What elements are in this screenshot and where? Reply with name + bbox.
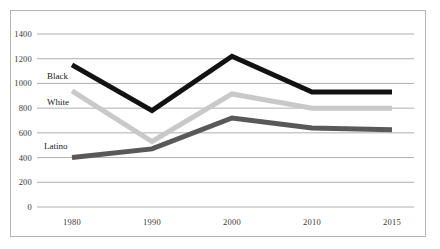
y-tick-label-1000: 1000 bbox=[2, 79, 32, 88]
y-tick-label-1400: 1400 bbox=[2, 30, 32, 39]
y-tick-label-200: 200 bbox=[2, 178, 32, 187]
y-tick-label-800: 800 bbox=[2, 104, 32, 113]
x-tick-label-2010: 2010 bbox=[289, 218, 335, 227]
x-tick-label-2000: 2000 bbox=[209, 218, 255, 227]
series-label-black: Black bbox=[47, 72, 68, 81]
x-tick-label-1990: 1990 bbox=[129, 218, 175, 227]
y-tick-label-0: 0 bbox=[2, 203, 32, 212]
y-tick-label-400: 400 bbox=[2, 154, 32, 163]
y-tick-label-1200: 1200 bbox=[2, 55, 32, 64]
series-lines bbox=[72, 56, 392, 157]
line-chart bbox=[0, 0, 440, 249]
series-label-white: White bbox=[47, 98, 69, 107]
y-tick-label-600: 600 bbox=[2, 129, 32, 138]
x-tick-label-1980: 1980 bbox=[49, 218, 95, 227]
x-tick-label-2015: 2015 bbox=[369, 218, 415, 227]
series-label-latino: Latino bbox=[44, 142, 68, 151]
